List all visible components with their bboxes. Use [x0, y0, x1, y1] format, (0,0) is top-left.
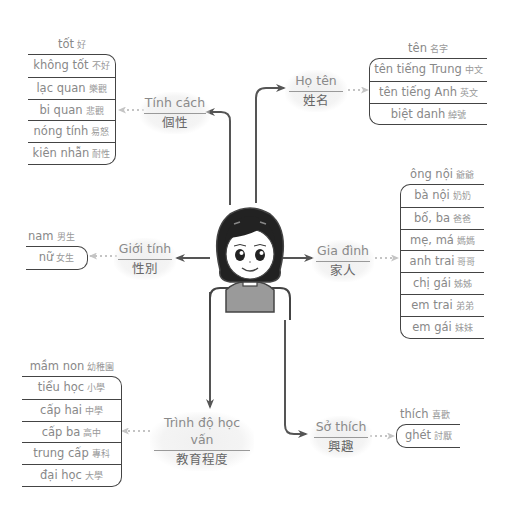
list-item: tên tiếng Trung中文 — [370, 59, 487, 81]
list-item: bà nội奶奶 — [401, 185, 484, 207]
topic-label-zh: 家人 — [316, 262, 370, 280]
education-list: mầm non幼稚園 tiểu học小學 cấp hai中學 cấp ba高中… — [22, 356, 122, 487]
topic-name[interactable]: Họ tên 姓名 — [285, 70, 347, 112]
topic-hobby[interactable]: Sở thích 興趣 — [310, 416, 372, 458]
list-header: tốt好 — [28, 34, 116, 54]
list-item: lạc quan樂觀 — [28, 77, 115, 99]
topic-label-vi: Họ tên — [289, 72, 343, 92]
list-item: em gái妹妹 — [401, 316, 484, 338]
list-item: anh trai哥哥 — [401, 250, 484, 272]
list-item: nữ女生 — [26, 247, 87, 269]
list-header: nam男生 — [26, 226, 88, 246]
list-item: cấp ba高中 — [22, 421, 121, 443]
list-item: không tốt不好 — [28, 55, 115, 77]
name-list: tên名字 tên tiếng Trung中文 tên tiếng Anh英文 … — [369, 38, 487, 125]
list-item: tên tiếng Anh英文 — [370, 81, 487, 103]
topic-label-zh: 個性 — [144, 114, 206, 132]
gender-list: nam男生 nữ女生 — [26, 226, 88, 270]
list-item: cấp hai中學 — [22, 399, 121, 421]
topic-education[interactable]: Trình độ học vấn 教育程度 — [150, 412, 254, 471]
list-header: tên名字 — [369, 38, 487, 58]
topic-label-vi: Tính cách — [144, 94, 206, 114]
list-header: mầm non幼稚園 — [22, 356, 122, 376]
topic-label-vi: Giới tính — [118, 240, 172, 260]
personality-list: tốt好 không tốt不好 lạc quan樂觀 bi quan悲觀 nó… — [28, 34, 116, 165]
hobby-list: thích喜歡 ghét討厭 — [396, 404, 460, 448]
topic-label-zh: 性別 — [118, 260, 172, 278]
list-item: trung cấp專科 — [22, 442, 121, 464]
list-item: biệt danh綽號 — [370, 103, 487, 125]
topic-label-vi: Gia đình — [316, 242, 370, 262]
list-item: em trai弟弟 — [401, 294, 484, 316]
topic-gender[interactable]: Giới tính 性別 — [114, 238, 176, 280]
topic-label-zh: 教育程度 — [154, 451, 250, 469]
topic-label-zh: 興趣 — [314, 438, 368, 456]
girl-avatar-icon — [200, 200, 300, 320]
list-item: kiên nhẫn耐性 — [28, 142, 115, 164]
topic-label-zh: 姓名 — [289, 92, 343, 110]
list-item: bi quan悲觀 — [28, 99, 115, 121]
topic-label-vi: Trình độ học vấn — [154, 414, 250, 451]
list-item: chị gái姊姊 — [401, 272, 484, 294]
topic-family[interactable]: Gia đình 家人 — [312, 240, 374, 282]
topic-label-vi: Sở thích — [314, 418, 368, 438]
list-item: bố, ba爸爸 — [401, 207, 484, 229]
list-item: mẹ, má媽媽 — [401, 229, 484, 251]
list-header: ông nội爺爺 — [400, 164, 484, 184]
list-item: nóng tính易怒 — [28, 120, 115, 142]
list-item: tiểu học小學 — [22, 377, 121, 399]
list-item: ghét討厭 — [397, 425, 460, 447]
list-item: đại học大學 — [22, 464, 121, 486]
list-header: thích喜歡 — [396, 404, 460, 424]
topic-personality[interactable]: Tính cách 個性 — [140, 92, 210, 134]
mind-map: Tính cách 個性 tốt好 không tốt不好 lạc quan樂觀… — [0, 0, 508, 516]
family-list: ông nội爺爺 bà nội奶奶 bố, ba爸爸 mẹ, má媽媽 anh… — [400, 164, 484, 339]
